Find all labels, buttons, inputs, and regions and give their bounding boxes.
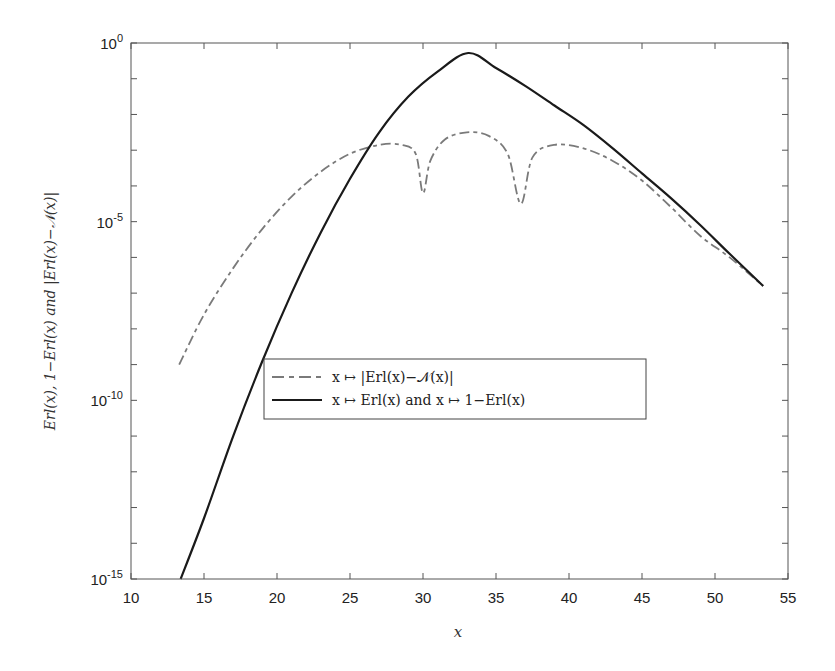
x-tick-label: 30 xyxy=(415,589,432,606)
legend-label: x ↦ Erl(x) and x ↦ 1−Erl(x) xyxy=(332,392,525,408)
x-tick-label: 45 xyxy=(634,589,651,606)
x-tick-label: 50 xyxy=(707,589,724,606)
y-axis-label: Erl(x), 1−Erl(x) and |Erl(x)−𝒩(x)| xyxy=(42,192,59,431)
legend-label: x ↦ |Erl(x)−𝒩(x)| xyxy=(332,369,454,386)
legend: x ↦ |Erl(x)−𝒩(x)|x ↦ Erl(x) and x ↦ 1−Er… xyxy=(264,359,646,419)
x-tick-label: 25 xyxy=(342,589,359,606)
x-tick-label: 40 xyxy=(561,589,578,606)
legend-box xyxy=(264,359,646,419)
x-axis-label: x xyxy=(454,623,463,641)
x-tick-label: 15 xyxy=(196,589,213,606)
x-tick-label: 55 xyxy=(780,589,797,606)
background xyxy=(0,0,835,671)
chart: 1015202530354045505510010-510-1010-15 x … xyxy=(0,0,835,671)
x-tick-label: 20 xyxy=(269,589,286,606)
x-tick-label: 35 xyxy=(488,589,505,606)
x-tick-label: 10 xyxy=(123,589,140,606)
